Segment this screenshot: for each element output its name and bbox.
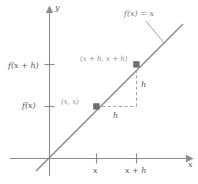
diagram-canvas: [0, 0, 198, 184]
lower-point-label: (x, x): [61, 99, 79, 106]
x-tick-label-x: x: [93, 167, 98, 175]
vertical-segment-label-h: h: [141, 81, 146, 89]
figure-container: y x f(x + h) f(x) x x + h f(x) = x (x + …: [0, 0, 198, 184]
x-tick-label-x-plus-h: x + h: [125, 167, 146, 175]
y-tick-label-f-of-x-plus-h: f(x + h): [8, 62, 39, 70]
y-axis-label: y: [55, 4, 60, 12]
horizontal-segment-label-h: h: [113, 112, 118, 120]
y-tick-label-f-of-x: f(x): [22, 102, 36, 110]
x-axis: [10, 154, 194, 164]
function-label-leader-line: [146, 21, 164, 43]
lower-point-marker: [93, 103, 99, 109]
y-axis: [45, 6, 55, 177]
x-axis-label: x: [188, 161, 193, 169]
upper-point-marker: [133, 61, 139, 67]
function-label: f(x) = x: [124, 10, 154, 18]
function-line: [36, 24, 183, 171]
y-axis-arrow-icon: [46, 6, 53, 14]
upper-point-label: (x + h, x + h): [80, 56, 127, 63]
